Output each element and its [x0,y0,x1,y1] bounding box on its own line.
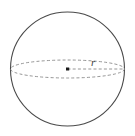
center-point-dot [66,68,69,71]
radius-label: r [91,56,96,68]
sphere-diagram: r [0,0,135,136]
sphere-figure-canvas: r [0,0,135,136]
